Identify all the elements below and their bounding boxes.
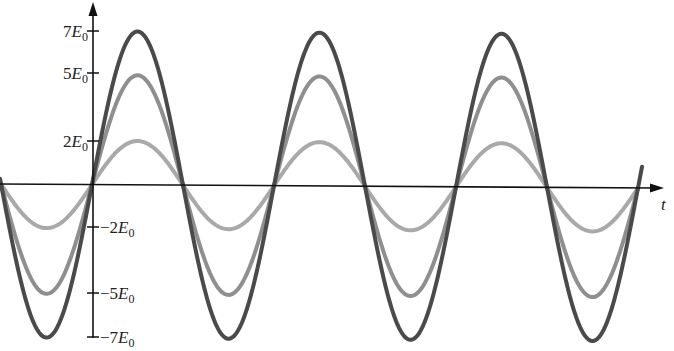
y-tick-label: −2E0 [100, 218, 134, 240]
y-tick-label: 5E0 [63, 64, 88, 86]
t-axis-label: t [661, 195, 667, 214]
y-tick-label: 7E0 [63, 22, 88, 44]
y-tick-label: −5E0 [100, 284, 134, 306]
y-axis-arrow-icon [89, 2, 98, 16]
t-axis [0, 184, 656, 188]
y-tick-label: 2E0 [63, 132, 88, 154]
sine-wave-chart: t 7E05E02E0−2E0−5E0−7E0 [0, 0, 674, 351]
y-ticks: 7E05E02E0−2E0−5E0−7E0 [63, 22, 134, 350]
t-axis-arrow-icon [650, 184, 664, 193]
y-tick-label: −7E0 [100, 328, 134, 350]
